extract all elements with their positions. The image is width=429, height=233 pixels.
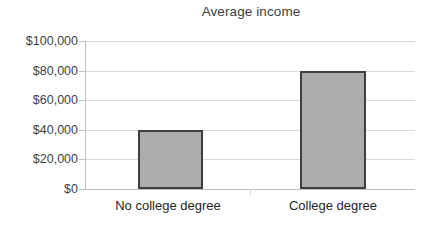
y-axis-tick-label-40000: $40,000 (2, 123, 78, 137)
y-axis-tick-label-60000: $60,000 (2, 93, 78, 107)
gridline-100000 (86, 41, 415, 42)
y-axis-tick-label-0: $0 (2, 182, 78, 196)
bar-college-degree[interactable] (300, 71, 366, 189)
average-income-bar-chart: Average income $100,000 $80,000 $60,000 … (0, 0, 429, 233)
category-separator-tick (250, 189, 251, 195)
y-axis-tick-label-80000: $80,000 (2, 64, 78, 78)
x-axis-category-label-college-degree: College degree (251, 198, 415, 213)
x-axis-category-label-no-college-degree: No college degree (86, 198, 250, 213)
y-axis-labels: $100,000 $80,000 $60,000 $40,000 $20,000… (0, 0, 78, 233)
y-axis-tick-label-20000: $20,000 (2, 152, 78, 166)
chart-title: Average income (86, 4, 416, 19)
bar-no-college-degree[interactable] (138, 130, 203, 189)
y-axis-tick-label-100000: $100,000 (2, 34, 78, 48)
plot-area (86, 41, 415, 189)
